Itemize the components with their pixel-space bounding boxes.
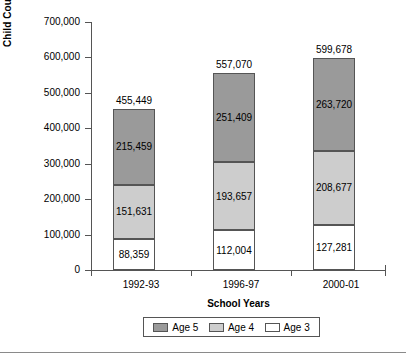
chart-figure: Child Count by Age 700,000600,000500,000… (0, 0, 406, 362)
bar-segment-value-label: 127,281 (316, 242, 352, 253)
bar-segment-value-label: 263,720 (316, 99, 352, 110)
bar-segment: 112,004 (213, 230, 255, 270)
bar-segment: 127,281 (313, 225, 355, 270)
y-axis-tick (85, 22, 91, 23)
y-axis-tick-label: 600,000 (18, 52, 80, 62)
bar-segment-value-label: 193,657 (216, 191, 252, 202)
legend-swatch-icon (265, 323, 280, 332)
legend: Age 5Age 4Age 3 (143, 317, 320, 337)
bar-segment-value-label: 251,409 (216, 112, 252, 123)
bar-segment: 88,359 (113, 239, 155, 270)
x-axis-tick (291, 270, 292, 276)
bar-segment-value-label: 215,459 (116, 141, 152, 152)
bar-segment: 208,677 (313, 151, 355, 225)
y-axis-line (91, 22, 92, 271)
bar-total-label: 599,678 (289, 44, 379, 55)
y-axis-tick-label: 300,000 (18, 159, 80, 169)
y-axis-tick (85, 235, 91, 236)
bar-total-label: 557,070 (189, 59, 279, 70)
x-axis-tick (91, 270, 92, 276)
x-axis-category-label: 1996-97 (201, 279, 281, 290)
bar-segment-value-label: 88,359 (119, 249, 150, 260)
y-axis-tick-label: 500,000 (18, 88, 80, 98)
y-axis-title: Child Count by Age (2, 0, 13, 90)
y-axis-tick (85, 164, 91, 165)
legend-swatch-icon (209, 323, 224, 332)
x-axis-category-label: 1992-93 (101, 279, 181, 290)
y-axis-tick-label: 400,000 (18, 123, 80, 133)
bar-segment: 263,720 (313, 58, 355, 151)
x-axis-tick (385, 270, 386, 276)
legend-item-label: Age 5 (172, 322, 198, 333)
bar-segment: 251,409 (213, 73, 255, 162)
y-axis-tick-label: 700,000 (18, 17, 80, 27)
bar-total-label: 455,449 (89, 95, 179, 106)
y-axis-tick (85, 128, 91, 129)
y-axis-tick-label: 0 (18, 265, 80, 275)
bar-segment: 151,631 (113, 185, 155, 239)
y-axis-tick-label: 100,000 (18, 230, 80, 240)
bar-segment: 193,657 (213, 162, 255, 231)
legend-item-label: Age 4 (228, 322, 254, 333)
y-axis-tick (85, 199, 91, 200)
x-axis-title: School Years (91, 298, 386, 309)
x-axis-tick (191, 270, 192, 276)
bottom-divider (0, 352, 406, 353)
legend-item: Age 5 (153, 322, 198, 333)
x-axis-line (91, 270, 386, 271)
bar-segment-value-label: 112,004 (216, 245, 251, 256)
bar-segment: 215,459 (113, 109, 155, 185)
legend-item-label: Age 3 (284, 322, 310, 333)
y-axis-tick (85, 57, 91, 58)
x-axis-category-label: 2000-01 (301, 279, 381, 290)
legend-swatch-icon (153, 323, 168, 332)
y-axis-tick-label: 200,000 (18, 194, 80, 204)
legend-item: Age 3 (265, 322, 310, 333)
bar-segment-value-label: 151,631 (116, 206, 152, 217)
legend-item: Age 4 (209, 322, 254, 333)
bar-segment-value-label: 208,677 (316, 182, 352, 193)
